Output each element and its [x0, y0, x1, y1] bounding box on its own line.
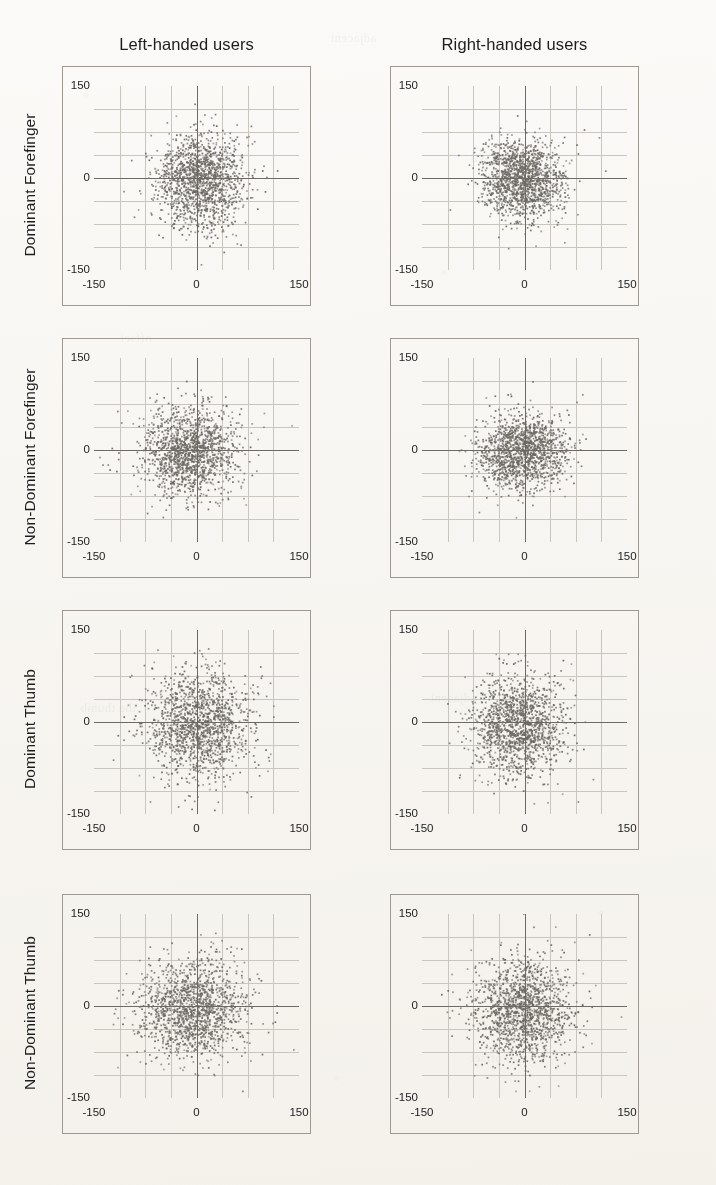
x-tick-zero: 0 [173, 278, 221, 290]
scatter-panel-0-0: 150-1500-1500150 [62, 66, 311, 306]
scatter-panel-3-1: 150-1500-1500150 [390, 894, 639, 1134]
plot-area [422, 358, 627, 542]
y-tick-zero: 0 [62, 999, 90, 1011]
scatter-panel-0-1: 150-1500-1500150 [390, 66, 639, 306]
y-tick-min: -150 [62, 1091, 90, 1103]
scatter-points [94, 86, 299, 270]
x-tick-max: 150 [275, 550, 323, 562]
x-tick-max: 150 [275, 822, 323, 834]
y-tick-zero: 0 [62, 443, 90, 455]
x-tick-max: 150 [603, 550, 651, 562]
x-tick-min: -150 [70, 822, 118, 834]
y-tick-max: 150 [62, 79, 90, 91]
x-tick-min: -150 [398, 822, 446, 834]
scatter-panel-2-0: 150-1500-1500150 [62, 610, 311, 850]
x-tick-min: -150 [70, 278, 118, 290]
row-label-non-dominant-forefinger: Non-Dominant Forefinger [21, 317, 39, 597]
plot-area [94, 358, 299, 542]
x-tick-max: 150 [603, 1106, 651, 1118]
y-tick-max: 150 [390, 907, 418, 919]
y-tick-max: 150 [62, 623, 90, 635]
x-tick-min: -150 [70, 550, 118, 562]
x-tick-zero: 0 [173, 550, 221, 562]
y-tick-max: 150 [62, 351, 90, 363]
x-tick-max: 150 [275, 278, 323, 290]
scatter-points [422, 86, 627, 270]
y-tick-zero: 0 [390, 443, 418, 455]
plot-area [94, 914, 299, 1098]
scatter-points [94, 630, 299, 814]
plot-area [422, 86, 627, 270]
y-tick-min: -150 [62, 807, 90, 819]
y-tick-min: -150 [390, 263, 418, 275]
y-tick-max: 150 [390, 79, 418, 91]
scatter-points [422, 914, 627, 1098]
y-tick-zero: 0 [62, 171, 90, 183]
row-label-dominant-forefinger: Dominant Forefinger [21, 45, 39, 325]
scatter-points [94, 358, 299, 542]
x-tick-zero: 0 [173, 1106, 221, 1118]
plot-area [94, 630, 299, 814]
x-tick-zero: 0 [501, 1106, 549, 1118]
scatter-panel-3-0: 150-1500-1500150 [62, 894, 311, 1134]
y-tick-min: -150 [390, 535, 418, 547]
x-tick-min: -150 [398, 550, 446, 562]
y-tick-max: 150 [62, 907, 90, 919]
x-tick-max: 150 [603, 822, 651, 834]
x-tick-zero: 0 [501, 278, 549, 290]
plot-area [422, 914, 627, 1098]
y-tick-max: 150 [390, 623, 418, 635]
scatter-points [422, 358, 627, 542]
x-tick-max: 150 [275, 1106, 323, 1118]
scatter-points [94, 914, 299, 1098]
y-tick-min: -150 [62, 535, 90, 547]
y-tick-zero: 0 [390, 715, 418, 727]
y-tick-min: -150 [62, 263, 90, 275]
x-tick-zero: 0 [173, 822, 221, 834]
y-tick-min: -150 [390, 1091, 418, 1103]
x-tick-min: -150 [398, 278, 446, 290]
scatter-panel-1-1: 150-1500-1500150 [390, 338, 639, 578]
scatter-panel-1-0: 150-1500-1500150 [62, 338, 311, 578]
column-header-left-handed: Left-handed users [62, 35, 311, 54]
figure-root: Left-handed usersRight-handed usersDomin… [0, 0, 716, 1185]
scatter-points [422, 630, 627, 814]
y-tick-zero: 0 [390, 171, 418, 183]
y-tick-zero: 0 [390, 999, 418, 1011]
x-tick-max: 150 [603, 278, 651, 290]
row-label-non-dominant-thumb: Non-Dominant Thumb [21, 873, 39, 1153]
y-tick-min: -150 [390, 807, 418, 819]
row-label-dominant-thumb: Dominant Thumb [21, 589, 39, 869]
plot-area [94, 86, 299, 270]
x-tick-zero: 0 [501, 550, 549, 562]
y-tick-max: 150 [390, 351, 418, 363]
plot-area [422, 630, 627, 814]
x-tick-zero: 0 [501, 822, 549, 834]
y-tick-zero: 0 [62, 715, 90, 727]
scatter-panel-2-1: 150-1500-1500150 [390, 610, 639, 850]
column-header-right-handed: Right-handed users [390, 35, 639, 54]
x-tick-min: -150 [70, 1106, 118, 1118]
x-tick-min: -150 [398, 1106, 446, 1118]
